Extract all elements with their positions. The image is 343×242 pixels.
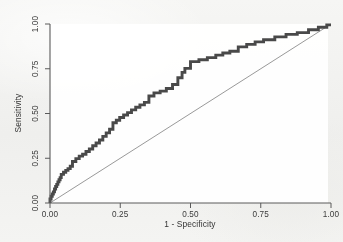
y-tick-label: 0.50 — [31, 105, 40, 122]
x-tick-label: 0.00 — [42, 210, 59, 219]
x-axis-title: 1 - Specificity — [164, 219, 216, 229]
x-tick-label: 0.25 — [112, 210, 129, 219]
x-axis-tick-labels: 0.000.250.500.751.00 — [42, 210, 340, 219]
y-axis-tick-labels: 0.000.250.500.751.00 — [31, 15, 40, 211]
x-tick-label: 0.75 — [253, 210, 270, 219]
roc-chart-svg: 0.000.250.500.751.00 0.000.250.500.751.0… — [0, 0, 343, 242]
roc-curve-figure: 0.000.250.500.751.00 0.000.250.500.751.0… — [0, 0, 343, 242]
plot-container: 0.000.250.500.751.00 0.000.250.500.751.0… — [0, 0, 343, 242]
y-tick-label: 0.25 — [31, 150, 40, 167]
y-tick-label: 0.75 — [31, 60, 40, 77]
x-tick-label: 0.50 — [182, 210, 199, 219]
y-tick-label: 1.00 — [31, 15, 40, 32]
x-tick-label: 1.00 — [323, 210, 340, 219]
y-axis-ticks — [45, 24, 50, 203]
x-axis-ticks — [50, 203, 331, 208]
y-tick-label: 0.00 — [31, 194, 40, 211]
y-axis-title: Sensitivity — [13, 93, 23, 133]
